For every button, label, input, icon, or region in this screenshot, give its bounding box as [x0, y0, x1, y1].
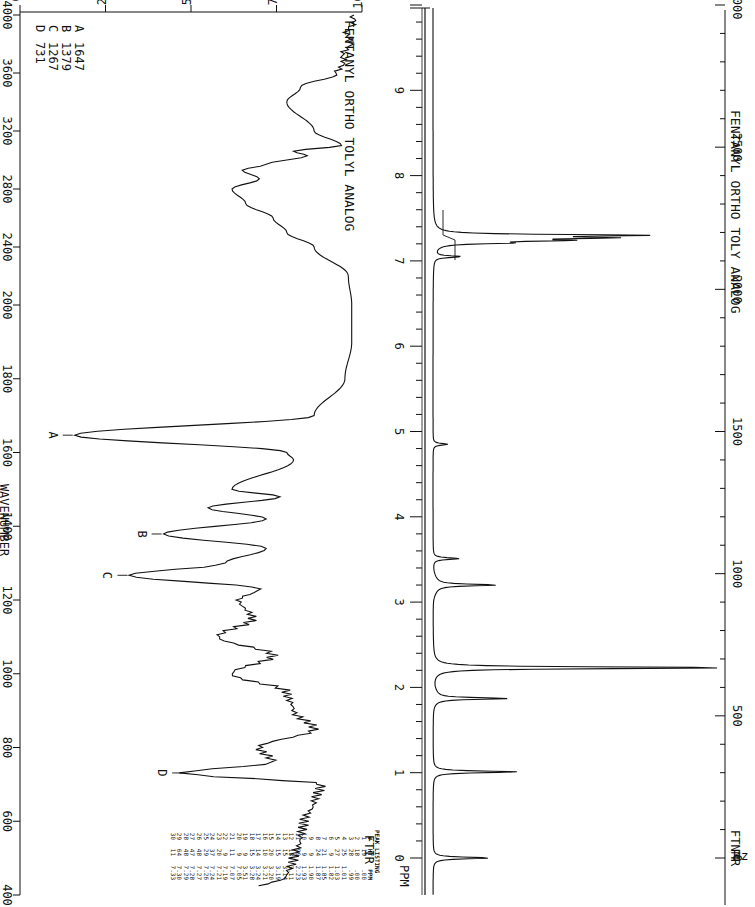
- ftir-x-tick-label: 800: [0, 737, 14, 759]
- nmr-ppm-tick-label: 4: [392, 513, 406, 520]
- ftir-x-label: WAVENUMBER: [0, 484, 11, 557]
- peak-index: 13: [281, 830, 288, 840]
- ftir-x-tick-label: 600: [0, 810, 14, 832]
- spectra-sheet: 0123456789 050010001500200025003000 Hz P…: [0, 0, 755, 907]
- peak-height: 15: [275, 844, 282, 856]
- ftir-y-ticks: 0255075100% TRANSMITTANCE: [9, 0, 365, 12]
- peak-index: 21: [228, 830, 235, 840]
- peak-height: 24: [314, 844, 321, 856]
- peak-height: 10: [261, 844, 268, 856]
- peak-listing-row: 11992.23: [294, 830, 301, 880]
- peak-index: 26: [195, 830, 202, 840]
- ftir-legend-key: D: [33, 25, 47, 32]
- peak-ppm: 7.27: [195, 860, 202, 880]
- nmr-ppm-tick-label: 2: [392, 684, 406, 691]
- ftir-legend-key: A: [72, 25, 86, 33]
- nmr-spectrum: 0123456789 050010001500200025003000 Hz P…: [392, 0, 749, 905]
- peak-listing-row: 14153.19: [275, 830, 282, 880]
- peak-index: 23: [215, 830, 222, 840]
- peak-ppm: 3.14: [281, 860, 288, 880]
- ftir-legend-value: 1379: [59, 42, 73, 71]
- peak-height: 15: [281, 844, 288, 856]
- ftir-legend-key: C: [46, 25, 60, 32]
- ftir-x-tick-label: 3200: [0, 117, 14, 146]
- peak-index: 18: [248, 830, 255, 840]
- peak-listing-row: 26487.27: [195, 830, 202, 880]
- ftir-y-tick-label: 25: [95, 0, 109, 5]
- peak-listing-rows: 119.00218.00328.994251.015271.03691.8272…: [169, 830, 367, 880]
- peak-ppm: 1.01: [340, 860, 347, 880]
- ftir-peak-markers: ABCD: [46, 432, 182, 777]
- nmr-trace: [433, 8, 717, 895]
- ftir-x-tick-label: 1600: [0, 438, 14, 467]
- peak-height: 99: [294, 844, 301, 856]
- ftir-x-tick-label: 1800: [0, 364, 14, 393]
- ftir-x-tick-label: 2000: [0, 291, 14, 320]
- peak-index: 30: [169, 830, 176, 840]
- ftir-marker-d: D: [155, 769, 169, 776]
- nmr-ppm-tick-label: 6: [392, 343, 406, 350]
- peak-index: 1: [360, 830, 367, 840]
- ftir-marker-c: C: [100, 572, 114, 579]
- peak-ppm: 1.82: [327, 860, 334, 880]
- peak-ppm: 3.21: [261, 860, 268, 880]
- peak-ppm: .00: [360, 860, 367, 880]
- peak-height: 11: [228, 844, 235, 856]
- ftir-legend-value: 1267: [46, 42, 60, 71]
- peak-listing: PEAK LISTING # HT PPM 119.00218.00328.99…: [169, 830, 380, 880]
- ftir-x-tick-label: 3600: [0, 59, 14, 88]
- peak-listing-row: 16103.21: [261, 830, 268, 880]
- peak-listing-row: 28487.29: [182, 830, 189, 880]
- nmr-instrument-label: FTNMR: [728, 830, 742, 867]
- peak-ppm: 3.19: [275, 860, 282, 880]
- nmr-ppm-tick-label: 5: [392, 428, 406, 435]
- peak-listing-row: 8241.87: [314, 830, 321, 880]
- peak-listing-row: 13153.14: [281, 830, 288, 880]
- peak-listing-row: 4251.01: [340, 830, 347, 880]
- ftir-compound-label: FENTANYL ORTHO TOLYL ANALOG: [342, 20, 357, 231]
- peak-ppm: 1.87: [314, 860, 321, 880]
- ftir-x-tick-label: 1200: [0, 586, 14, 615]
- peak-index: 14: [275, 830, 282, 840]
- peak-height: 9: [307, 844, 314, 856]
- peak-ppm: 7.33: [169, 860, 176, 880]
- peak-listing-row: 30117.33: [169, 830, 176, 880]
- ftir-legend: A1647B1379C1267D731: [33, 25, 86, 71]
- ftir-legend-value: 731: [33, 42, 47, 64]
- peak-listing-row: 23207.21: [215, 830, 222, 880]
- peak-index: 11: [294, 830, 301, 840]
- peak-ppm: 3.28: [248, 860, 255, 880]
- ftir-x-ticks: 4000360032002800240020001800160014001200…: [0, 1, 20, 906]
- nmr-ppm-ticks: 0123456789: [392, 5, 422, 862]
- peak-index: 9: [307, 830, 314, 840]
- ftir-marker-b: B: [135, 530, 149, 537]
- peak-listing-row: 21117.07: [228, 830, 235, 880]
- peak-index: 4: [340, 830, 347, 840]
- peak-height: 19: [360, 844, 367, 856]
- peak-listing-row: 991.90: [307, 830, 314, 880]
- peak-height: 48: [182, 844, 189, 856]
- nmr-hz-tick-label: 1500: [730, 417, 744, 446]
- peak-ppm: 2.23: [294, 860, 301, 880]
- nmr-hz-tick-label: 1000: [730, 559, 744, 588]
- peak-ppm: .99: [347, 860, 354, 880]
- ftir-y-tick-label: 100: [351, 0, 365, 9]
- ftir-spectrum: 4000360032002800240020001800160014001200…: [0, 0, 376, 906]
- peak-index: 3: [347, 830, 354, 840]
- nmr-hz-tick-label: 3000: [730, 0, 744, 19]
- peak-ppm: 7.07: [228, 860, 235, 880]
- peak-listing-row: 691.82: [327, 830, 334, 880]
- nmr-ppm-tick-label: 7: [392, 257, 406, 264]
- ftir-y-tick-label: 50: [180, 0, 194, 5]
- peak-ppm: 7.29: [182, 860, 189, 880]
- peak-height: 28: [347, 844, 354, 856]
- peak-listing-row: 18153.28: [248, 830, 255, 880]
- peak-ppm: 7.21: [215, 860, 222, 880]
- nmr-hz-tick-label: 500: [730, 705, 744, 727]
- nmr-ppm-tick-label: 9: [392, 87, 406, 94]
- nmr-integral: [443, 210, 455, 260]
- nmr-ppm-tick-label: 0: [392, 854, 406, 861]
- peak-index: 16: [261, 830, 268, 840]
- nmr-ppm-tick-label: 8: [392, 172, 406, 179]
- spectra-canvas: 0123456789 050010001500200025003000 Hz P…: [0, 0, 755, 907]
